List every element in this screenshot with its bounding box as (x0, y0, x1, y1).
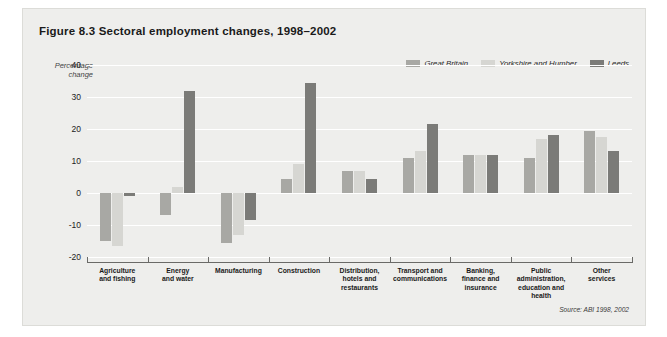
x-axis-category-label-line: finance and (450, 275, 511, 283)
bar-leeds (608, 151, 619, 193)
x-axis-category-label-line: Construction (269, 267, 330, 275)
x-axis-separator (208, 257, 209, 263)
x-axis-category-label: Distribution,hotels andrestaurants (329, 267, 390, 292)
x-axis-category-label-line: Other (571, 267, 632, 275)
x-axis-category-label-line: education and (511, 284, 572, 292)
y-axis-tick-label: -10 (69, 220, 81, 230)
source-note: Source: ABI 1998, 2002 (559, 306, 629, 313)
x-axis-line (87, 262, 632, 263)
bar-yh (536, 139, 547, 193)
bar-yh (354, 171, 365, 193)
x-axis-category-label-line: and fishing (87, 275, 148, 283)
bar-group (450, 65, 511, 257)
bar-gb (524, 158, 535, 193)
x-axis-separator (269, 257, 270, 263)
y-axis-tick-label: -20 (69, 252, 81, 262)
x-axis-category-label-line: restaurants (329, 284, 390, 292)
x-axis-separator (148, 257, 149, 263)
y-axis-tick-label: 30 (72, 92, 81, 102)
plot-area: 403020100-10-20 (87, 65, 632, 257)
bar-group (208, 65, 269, 257)
x-axis-separator (450, 257, 451, 263)
x-axis-separator (87, 257, 88, 263)
x-axis-category-label-line: administration, (511, 275, 572, 283)
bar-leeds (427, 124, 438, 193)
bar-yh (415, 151, 426, 193)
y-axis-tick-label: 40 (72, 60, 81, 70)
bar-group (269, 65, 330, 257)
x-axis-separator (390, 257, 391, 263)
x-axis-separator (571, 257, 572, 263)
bar-groups (87, 65, 632, 257)
gridline (87, 257, 632, 258)
y-axis-tick-label: 10 (72, 156, 81, 166)
bar-gb (160, 193, 171, 215)
bar-gb (100, 193, 111, 241)
bar-group (511, 65, 572, 257)
x-axis-category-label: Energyand water (148, 267, 209, 284)
bar-leeds (487, 155, 498, 193)
x-axis-category-label: Transport andcommunications (390, 267, 451, 284)
bar-yh (112, 193, 123, 246)
bar-group (329, 65, 390, 257)
bar-yh (172, 187, 183, 193)
x-axis-category-label-line: Manufacturing (208, 267, 269, 275)
bar-gb (584, 131, 595, 193)
x-axis-separator (511, 257, 512, 263)
y-axis-tick-label: 0 (76, 188, 81, 198)
figure-title: Figure 8.3 Sectoral employment changes, … (39, 25, 336, 37)
y-axis-tick-label: 20 (72, 124, 81, 134)
x-axis-category-label: Publicadministration,education andhealth (511, 267, 572, 301)
x-axis-category-label-line: insurance (450, 284, 511, 292)
x-axis-category-label-line: hotels and (329, 275, 390, 283)
bar-group (148, 65, 209, 257)
x-axis-category-label-line: Transport and (390, 267, 451, 275)
bar-leeds (124, 193, 135, 196)
x-axis-category-label-line: Agriculture (87, 267, 148, 275)
bar-leeds (548, 135, 559, 193)
bar-gb (463, 155, 474, 193)
bar-yh (596, 137, 607, 193)
bar-group (390, 65, 451, 257)
bar-gb (281, 179, 292, 193)
x-axis-category-label: Construction (269, 267, 330, 275)
x-axis-category-label-line: Energy (148, 267, 209, 275)
x-axis-category-label: Banking,finance andinsurance (450, 267, 511, 292)
bar-gb (342, 171, 353, 193)
x-axis-category-label-line: and water (148, 275, 209, 283)
bar-group (87, 65, 148, 257)
x-axis-category-label-line: Banking, (450, 267, 511, 275)
bar-gb (403, 158, 414, 193)
bar-yh (475, 155, 486, 193)
x-axis-category-label: Otherservices (571, 267, 632, 284)
x-axis-category-label-line: health (511, 292, 572, 300)
x-axis-separator (632, 257, 633, 263)
bar-leeds (184, 91, 195, 193)
x-axis-category-label-line: Public (511, 267, 572, 275)
x-axis-category-label-line: Distribution, (329, 267, 390, 275)
y-axis-title-line1: Percentage (31, 61, 93, 70)
bar-leeds (305, 83, 316, 193)
y-axis-title-line2: change (31, 70, 93, 79)
bar-yh (233, 193, 244, 235)
y-axis-title: Percentage change (31, 61, 93, 79)
x-axis-separator (329, 257, 330, 263)
x-axis-category-label-line: services (571, 275, 632, 283)
x-axis-category-label: Agricultureand fishing (87, 267, 148, 284)
x-axis-category-label-line: communications (390, 275, 451, 283)
bar-yh (293, 164, 304, 193)
bar-group (571, 65, 632, 257)
x-axis-category-label: Manufacturing (208, 267, 269, 275)
bar-leeds (245, 193, 256, 220)
bar-gb (221, 193, 232, 243)
bar-leeds (366, 179, 377, 193)
figure-panel: Figure 8.3 Sectoral employment changes, … (22, 8, 646, 326)
